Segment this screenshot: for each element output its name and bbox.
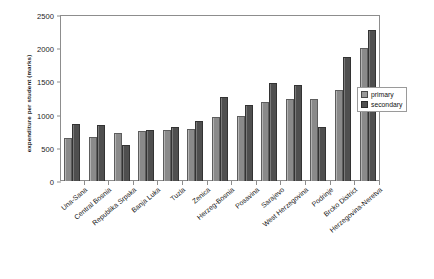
x-axis-tick-label: West Herzegovina [261, 186, 309, 228]
bar-secondary [343, 57, 351, 181]
bar-group [281, 15, 306, 181]
bar-group [109, 15, 134, 181]
legend-swatch-icon [361, 101, 368, 108]
bar-primary [163, 130, 171, 181]
y-axis-tick-label: 2000 [37, 45, 57, 54]
bar-secondary [146, 130, 154, 181]
bar-primary [261, 102, 269, 181]
bar-group [331, 15, 356, 181]
bar-primary [138, 131, 146, 181]
y-axis-tick-label: 500 [41, 144, 57, 153]
bar-secondary [195, 121, 203, 181]
y-axis-tick: 500 [41, 144, 61, 153]
x-axis-tick-label: Tuzla [169, 186, 186, 202]
y-axis-tick-label: 1000 [37, 111, 57, 120]
bar-group [158, 15, 183, 181]
y-axis-tick: 1000 [37, 111, 61, 120]
bar-secondary [220, 97, 228, 181]
bar-group [60, 15, 85, 181]
bar-primary [212, 117, 220, 181]
bar-chart: expenditure per student (marks) 05001000… [0, 0, 434, 279]
legend-item-primary: primary [361, 91, 402, 98]
bar-group [134, 15, 159, 181]
legend-label: secondary [371, 101, 402, 108]
bar-primary [360, 48, 368, 181]
bar-group [183, 15, 208, 181]
bar-secondary [171, 127, 179, 181]
bar-primary [89, 137, 97, 181]
bar-primary [114, 133, 122, 181]
x-axis-tick-label: Republika Srpska [91, 186, 138, 227]
bar-secondary [294, 85, 302, 181]
bar-primary [64, 138, 72, 181]
legend-label: primary [371, 91, 394, 98]
y-axis-tick-label: 1500 [37, 78, 57, 87]
x-axis-tick-label: Zenica [191, 186, 212, 205]
bar-primary [335, 90, 343, 181]
bar-primary [286, 99, 294, 181]
bar-secondary [245, 105, 253, 181]
legend-item-secondary: secondary [361, 101, 402, 108]
bar-secondary [318, 127, 326, 181]
bars-layer [60, 15, 380, 181]
bar-group [85, 15, 110, 181]
bar-secondary [269, 83, 277, 181]
bar-group [257, 15, 282, 181]
bar-primary [187, 129, 195, 181]
y-axis-tick-label: 0 [50, 178, 57, 187]
bar-primary [237, 116, 245, 181]
chart-legend: primarysecondary [357, 87, 407, 112]
bar-secondary [72, 124, 80, 181]
bar-group [306, 15, 331, 181]
y-axis-tick: 1500 [37, 78, 61, 87]
y-axis-tick: 2000 [37, 45, 61, 54]
y-axis-tick-label: 2500 [37, 12, 57, 21]
y-axis-tick: 2500 [37, 12, 61, 21]
bar-group [232, 15, 257, 181]
bar-secondary [122, 145, 130, 181]
bar-primary [310, 99, 318, 181]
x-axis-labels: Una-SanaCentral BosniaRepublika SrpskaBa… [60, 186, 380, 278]
bar-secondary [97, 125, 105, 181]
legend-swatch-icon [361, 91, 368, 98]
x-axis-tick-label: Posavina [234, 186, 261, 210]
bar-group [208, 15, 233, 181]
y-axis-title: expenditure per student (marks) [25, 29, 32, 179]
